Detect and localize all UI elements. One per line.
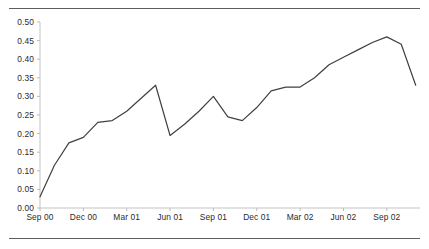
x-axis-tick-label: Mar 02 [287, 212, 314, 222]
y-axis-tick-label: 0.50 [0, 17, 34, 27]
y-axis-tick-label: 0.20 [0, 129, 34, 139]
y-axis-tick-label: 0.35 [0, 73, 34, 83]
x-axis-tick-label: Sep 02 [373, 212, 400, 222]
y-axis-tick-label: 0.10 [0, 166, 34, 176]
x-axis-tick-label: Jun 02 [331, 212, 357, 222]
y-axis-tick-label: 0.40 [0, 54, 34, 64]
y-axis-tick-label: 0.30 [0, 91, 34, 101]
y-axis-tick-label: 0.25 [0, 110, 34, 120]
x-axis-tick-label: Dec 00 [70, 212, 97, 222]
x-axis-tick-label: Dec 01 [243, 212, 270, 222]
chart-figure: 0.000.050.100.150.200.250.300.350.400.45… [0, 0, 429, 249]
x-axis-tick-label: Jun 01 [157, 212, 183, 222]
y-axis-tick-label: 0.15 [0, 147, 34, 157]
x-axis-tick-label: Mar 01 [113, 212, 140, 222]
y-axis-tick-label: 0.05 [0, 184, 34, 194]
x-axis-tick-label: Sep 01 [200, 212, 227, 222]
y-axis-tick-label: 0.45 [0, 36, 34, 46]
x-axis-tick-label: Sep 00 [26, 212, 53, 222]
data-series-line [40, 37, 416, 197]
